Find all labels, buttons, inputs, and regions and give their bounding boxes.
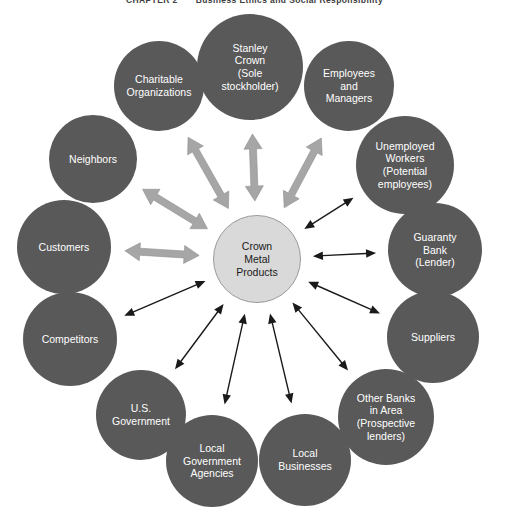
stakeholder-local-businesses[interactable]: Local Businesses: [259, 414, 351, 506]
stakeholder-competitors[interactable]: Competitors: [23, 292, 117, 386]
arrow-charitable-organizations: [188, 137, 229, 208]
arrow-customers: [125, 243, 199, 264]
stakeholder-suppliers[interactable]: Suppliers: [387, 291, 479, 383]
stakeholder-neighbors-label: Neighbors: [65, 153, 121, 166]
stakeholder-guaranty-bank[interactable]: Guaranty Bank (Lender): [388, 203, 482, 297]
stakeholder-us-government-label: U.S. Government: [108, 402, 174, 427]
stakeholder-stanley-crown[interactable]: Stanley Crown (Sole stockholder): [197, 14, 303, 120]
arrow-guaranty-bank: [313, 249, 376, 260]
crown-metal-products: Crown Metal Products: [213, 215, 301, 303]
arrow-unemployed-workers: [304, 198, 353, 229]
stakeholder-charitable-organizations[interactable]: Charitable Organizations: [114, 41, 204, 131]
arrow-local-government-agencies: [223, 314, 247, 405]
stakeholder-other-banks-in-area-label: Other Banks in Area (Prospective lenders…: [353, 392, 419, 442]
stakeholder-suppliers-label: Suppliers: [407, 331, 459, 344]
stakeholder-neighbors[interactable]: Neighbors: [49, 115, 137, 203]
arrow-competitors: [124, 281, 205, 316]
stakeholder-local-government-agencies-label: Local Government Agencies: [179, 442, 245, 480]
arrow-stanley-crown: [244, 134, 263, 201]
stakeholder-employees-and-managers-label: Employees and Managers: [319, 67, 379, 105]
stakeholder-unemployed-workers-label: Unemployed Workers (Potential employees): [372, 140, 439, 190]
stakeholder-local-government-agencies[interactable]: Local Government Agencies: [166, 415, 258, 507]
stakeholder-diagram: Crown Metal ProductsStanley Crown (Sole …: [0, 0, 509, 528]
stakeholder-employees-and-managers[interactable]: Employees and Managers: [304, 41, 394, 131]
arrow-other-banks-in-area: [292, 302, 348, 370]
stakeholder-guaranty-bank-label: Guaranty Bank (Lender): [409, 231, 460, 269]
stakeholder-competitors-label: Competitors: [38, 333, 103, 346]
stakeholder-customers-label: Customers: [35, 241, 94, 254]
stakeholder-other-banks-in-area[interactable]: Other Banks in Area (Prospective lenders…: [338, 369, 434, 465]
arrow-suppliers: [308, 282, 380, 314]
arrow-local-businesses: [268, 313, 293, 403]
stakeholder-charitable-organizations-label: Charitable Organizations: [123, 73, 196, 98]
stakeholder-customers[interactable]: Customers: [17, 200, 111, 294]
arrow-us-government: [175, 304, 224, 369]
arrow-neighbors: [143, 189, 208, 229]
stakeholder-local-businesses-label: Local Businesses: [274, 447, 336, 472]
arrow-employees-and-managers: [283, 138, 322, 208]
stakeholder-stanley-crown-label: Stanley Crown (Sole stockholder): [217, 42, 282, 92]
stakeholder-unemployed-workers[interactable]: Unemployed Workers (Potential employees): [356, 116, 454, 214]
crown-metal-products-label: Crown Metal Products: [232, 240, 281, 279]
